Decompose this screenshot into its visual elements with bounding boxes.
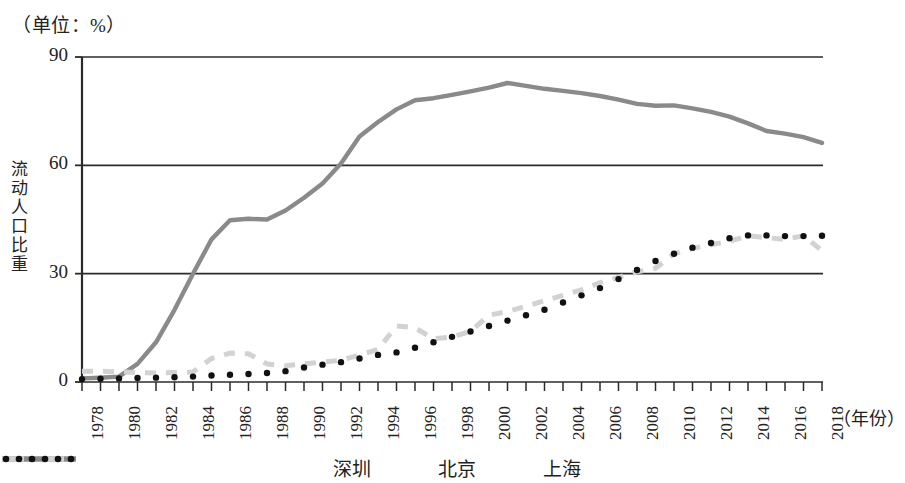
data-point-上海	[763, 232, 769, 238]
data-point-上海	[782, 233, 788, 239]
data-point-上海	[153, 374, 159, 380]
legend-label: 上海	[543, 454, 581, 481]
data-point-上海	[430, 339, 436, 345]
data-point-上海	[190, 373, 196, 379]
chart-figure: （单位：%） 流动人口比重 0306090 197819801982198419…	[0, 0, 905, 483]
data-point-上海	[375, 352, 381, 358]
legend-dot	[42, 456, 49, 463]
legend-dot	[3, 456, 10, 463]
data-point-上海	[449, 334, 455, 340]
data-point-上海	[689, 244, 695, 250]
data-point-上海	[726, 235, 732, 241]
data-point-上海	[634, 267, 640, 273]
data-point-上海	[319, 361, 325, 367]
data-point-上海	[393, 349, 399, 355]
data-point-上海	[578, 292, 584, 298]
data-point-上海	[338, 359, 344, 365]
data-point-上海	[282, 368, 288, 374]
chart-legend: 深圳北京上海	[0, 452, 905, 482]
legend-dot	[16, 456, 23, 463]
data-point-上海	[800, 233, 806, 239]
data-point-上海	[301, 364, 307, 370]
plot-area	[0, 0, 905, 483]
legend-dot	[29, 456, 36, 463]
data-point-上海	[745, 232, 751, 238]
x-axis-title: （年份）	[833, 404, 905, 430]
legend-item[interactable]: 北京	[429, 454, 476, 481]
data-point-上海	[560, 299, 566, 305]
data-point-上海	[615, 276, 621, 282]
data-point-上海	[708, 240, 714, 246]
data-point-上海	[356, 355, 362, 361]
data-point-上海	[412, 344, 418, 350]
data-point-上海	[134, 375, 140, 381]
legend-label: 深圳	[333, 454, 371, 481]
data-point-上海	[208, 372, 214, 378]
legend-dot	[55, 456, 62, 463]
data-point-上海	[523, 312, 529, 318]
data-point-上海	[97, 376, 103, 382]
legend-dot	[68, 456, 75, 463]
data-point-上海	[227, 372, 233, 378]
data-point-上海	[467, 328, 473, 334]
data-point-上海	[116, 375, 122, 381]
data-point-上海	[541, 307, 547, 313]
data-point-上海	[652, 258, 658, 264]
data-point-上海	[486, 323, 492, 329]
data-point-上海	[597, 285, 603, 291]
data-point-上海	[264, 370, 270, 376]
data-point-上海	[245, 371, 251, 377]
legend-label: 北京	[438, 454, 476, 481]
legend-item[interactable]: 深圳	[324, 454, 371, 481]
legend-item[interactable]: 上海	[534, 454, 581, 481]
data-point-上海	[171, 374, 177, 380]
series-line-北京	[82, 236, 822, 373]
data-point-上海	[819, 233, 825, 239]
data-point-上海	[671, 251, 677, 257]
data-point-上海	[504, 317, 510, 323]
data-point-上海	[79, 376, 85, 382]
